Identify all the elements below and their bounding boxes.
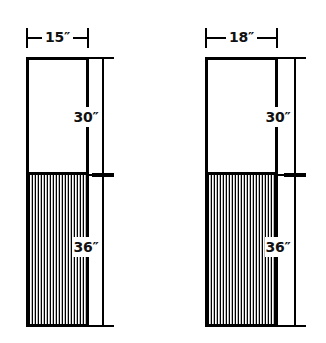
lower-height-dimension-left: 36″: [92, 175, 114, 327]
left-figure: 15″ 30″ 36″: [0, 0, 163, 343]
width-dimension-left: 15″: [26, 28, 89, 48]
upper-height-tick-top: [284, 57, 306, 59]
right-figure: 18″ 30″ 36″: [163, 0, 326, 343]
upper-height-dimension-left: 30″: [92, 57, 114, 175]
width-dimension-label: 15″: [26, 27, 89, 47]
lower-height-tick-bottom: [92, 325, 114, 327]
upper-height-dimension-label: 30″: [66, 107, 106, 127]
column-outline: [205, 57, 278, 327]
lower-height-tick-top: [92, 175, 114, 177]
upper-height-dimension-label: 30″: [258, 107, 298, 127]
lower-height-tick-bottom: [284, 325, 306, 327]
column-outline: [26, 57, 89, 327]
upper-height-tick-top: [92, 57, 114, 59]
width-dimension-right: 18″: [205, 28, 278, 48]
lower-height-dimension-label: 36″: [258, 237, 298, 257]
lower-height-tick-top: [284, 175, 306, 177]
lower-height-dimension-label: 36″: [66, 237, 106, 257]
width-dimension-label: 18″: [205, 27, 278, 47]
upper-height-dimension-right: 30″: [284, 57, 306, 175]
lower-height-dimension-right: 36″: [284, 175, 306, 327]
